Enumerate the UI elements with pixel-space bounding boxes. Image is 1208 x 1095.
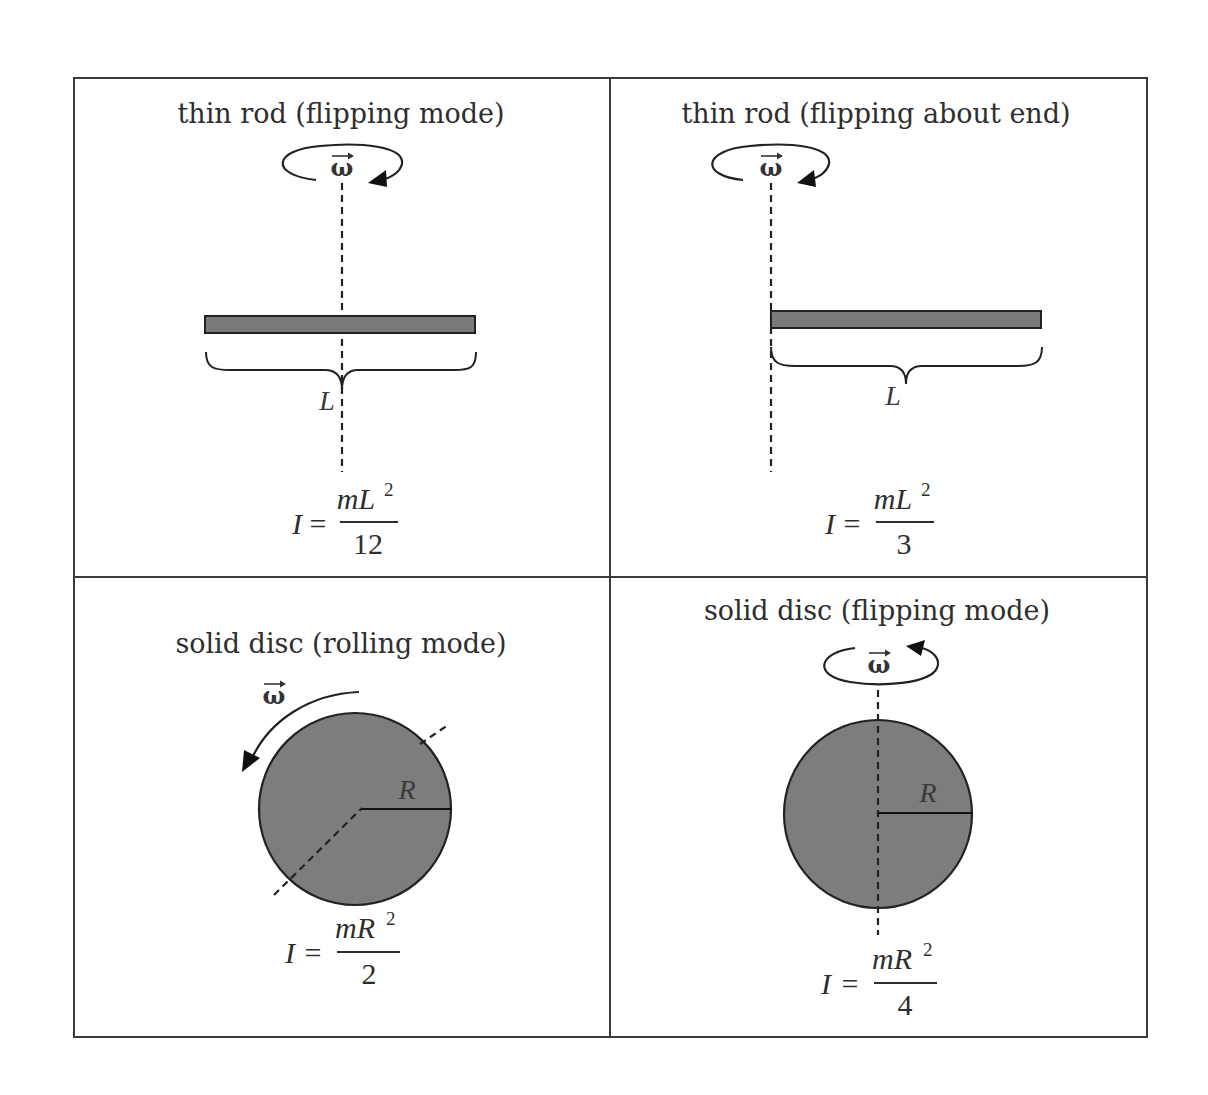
moment-of-inertia-diagram: thin rod (flipping mode) ω L I = mL 2 12… — [0, 0, 1208, 1095]
rod-body — [771, 311, 1041, 328]
svg-text:I: I — [284, 936, 297, 969]
radius-label: R — [918, 777, 936, 808]
numerator: mR — [335, 911, 375, 944]
svg-text:2: 2 — [923, 939, 933, 960]
panel-title: solid disc (flipping mode) — [704, 595, 1050, 626]
rod-body — [205, 316, 475, 333]
numerator: mL — [337, 482, 375, 515]
denominator: 3 — [897, 527, 912, 560]
denominator: 4 — [898, 988, 913, 1021]
table-grid — [74, 78, 1147, 1037]
panel-solid-disc-rolling: solid disc (rolling mode) R ω I = mR 2 2 — [175, 628, 506, 990]
length-brace — [771, 347, 1042, 384]
svg-text:2: 2 — [386, 908, 396, 929]
svg-text:I: I — [820, 967, 833, 1000]
panel-title: thin rod (flipping about end) — [681, 98, 1070, 129]
denominator: 2 — [362, 957, 377, 990]
formula: I = mR 2 4 — [820, 939, 937, 1021]
panel-thin-rod-center: thin rod (flipping mode) ω L I = mL 2 12 — [177, 98, 504, 560]
denominator: 12 — [353, 527, 383, 560]
numerator: mR — [872, 942, 912, 975]
omega-vector-label: ω — [263, 681, 286, 711]
svg-text:2: 2 — [921, 479, 931, 500]
svg-text:I: I — [824, 507, 837, 540]
radius-label: R — [397, 774, 415, 805]
panel-solid-disc-flipping: solid disc (flipping mode) ω R I = mR 2 … — [704, 595, 1050, 1021]
svg-text:=: = — [844, 507, 861, 540]
formula: I = mL 2 12 — [291, 479, 398, 560]
omega-vector-label: ω — [760, 153, 783, 183]
svg-text:=: = — [842, 967, 859, 1000]
rotation-axis-outer — [420, 725, 448, 744]
numerator: mL — [874, 482, 912, 515]
formula: I = mL 2 3 — [824, 479, 934, 560]
length-label: L — [884, 380, 901, 411]
svg-text:I: I — [291, 507, 304, 540]
omega-vector-label: ω — [868, 650, 891, 680]
svg-text:=: = — [305, 936, 322, 969]
svg-text:2: 2 — [384, 479, 394, 500]
panel-title: solid disc (rolling mode) — [175, 628, 506, 659]
panel-thin-rod-end: thin rod (flipping about end) ω L I = mL… — [681, 98, 1070, 560]
omega-vector-label: ω — [331, 153, 354, 183]
panel-title: thin rod (flipping mode) — [177, 98, 504, 129]
formula: I = mR 2 2 — [284, 908, 400, 990]
length-label: L — [318, 385, 335, 416]
svg-text:=: = — [310, 507, 327, 540]
